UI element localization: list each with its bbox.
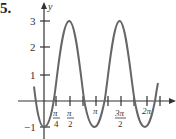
y-tick-2: 2 <box>30 41 36 53</box>
x-tick-pi-over-2: π 2 <box>67 108 74 129</box>
x-tick-2pi: 2π <box>142 106 152 116</box>
chart: y 3 2 1 −1 π 4 π 2 π 3π 2 2π <box>0 0 176 139</box>
y-axis-arrow-icon <box>41 2 47 9</box>
svg-text:2: 2 <box>68 119 73 129</box>
x-tick-pi: π <box>93 106 98 116</box>
svg-text:π: π <box>67 108 72 118</box>
svg-text:4: 4 <box>54 119 59 129</box>
x-axis-arrow-icon <box>169 98 176 104</box>
y-tick-3: 3 <box>30 15 36 27</box>
svg-text:2: 2 <box>118 119 123 129</box>
y-tick-neg1: −1 <box>24 121 36 133</box>
x-tick-3pi-over-2: 3π 2 <box>114 108 126 129</box>
svg-text:π: π <box>53 108 58 118</box>
svg-text:3π: 3π <box>114 108 125 118</box>
y-axis-label: y <box>47 1 53 12</box>
y-tick-1: 1 <box>30 69 36 81</box>
y-ticks <box>40 21 50 127</box>
x-tick-pi-over-4: π 4 <box>53 108 60 129</box>
